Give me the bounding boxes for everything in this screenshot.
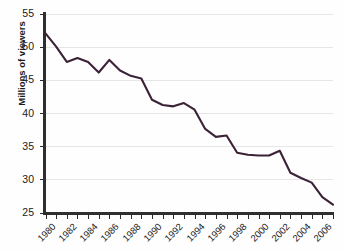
gridline [45,14,333,15]
x-axis-tick [152,214,153,219]
line-chart: Millions of viewers 25303540455055 19801… [0,0,344,251]
y-axis-tick-label: 50 [14,41,34,51]
x-axis-tick [120,214,121,219]
x-axis-tick [269,214,270,219]
x-axis-tick-label: 1990 [138,221,164,247]
x-axis-tick [227,214,228,219]
x-axis-tick-label: 2006 [308,221,334,247]
y-axis-tick-label: 55 [14,8,34,18]
x-axis-tick [322,214,323,219]
x-axis-tick-label: 1984 [74,221,100,247]
x-axis-tick-label: 1982 [52,221,78,247]
x-axis-tick [99,214,100,219]
x-axis-tick [141,214,142,219]
x-axis-tick-label: 1986 [95,221,121,247]
x-axis-tick [88,214,89,219]
x-axis-tick-label: 1980 [31,221,57,247]
x-axis-tick [248,214,249,219]
x-axis-tick [173,214,174,219]
x-axis-tick [67,214,68,219]
x-axis-tick-label: 1992 [159,221,185,247]
gridline [45,47,333,48]
gridline [45,179,333,180]
x-axis-tick [184,214,185,219]
x-axis-tick-label: 1998 [223,221,249,247]
x-axis-tick-label: 1988 [116,221,142,247]
x-axis-tick-label: 2000 [244,221,270,247]
x-axis-tick [109,214,110,219]
x-axis-tick-label: 1994 [180,221,206,247]
x-axis-tick [216,214,217,219]
x-axis-tick [290,214,291,219]
x-axis-tick [195,214,196,219]
gridline [45,80,333,81]
x-axis-tick [56,214,57,219]
y-axis-tick-label: 40 [14,108,34,118]
y-axis-tick-label: 45 [14,74,34,84]
x-axis-tick-label: 2004 [287,221,313,247]
x-axis-tick-label: 1996 [202,221,228,247]
x-axis-tick [333,214,334,219]
x-axis-tick [77,214,78,219]
x-axis-tick [237,214,238,219]
x-axis-tick [205,214,206,219]
gridline [45,113,333,114]
x-axis-tick [312,214,313,219]
x-axis-tick [280,214,281,219]
x-axis-tick [163,214,164,219]
x-axis-tick-label: 2002 [265,221,291,247]
y-axis-tick-label: 25 [14,207,34,217]
x-axis-tick [259,214,260,219]
x-axis-tick [131,214,132,219]
x-axis-tick [301,214,302,219]
x-axis-tick [46,214,47,219]
y-axis-tick-label: 30 [14,174,34,184]
gridline [45,146,333,147]
y-axis-line [43,12,46,214]
y-axis-tick-label: 35 [14,141,34,151]
